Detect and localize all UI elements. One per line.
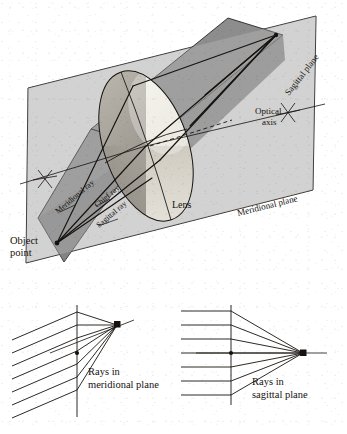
meridional-panel-rays	[12, 312, 117, 418]
optical-axis-label-line1: Optical	[255, 106, 282, 116]
meridional-panel-focus-marker	[114, 321, 121, 328]
sagittal-panel-label-line1: Rays in	[252, 376, 285, 387]
sagittal-panel-rays	[181, 311, 303, 395]
meridional-panel-label-line2: meridional plane	[88, 379, 159, 390]
object-point-marker	[55, 241, 60, 246]
meridional-panel: Rays in meridional plane	[12, 305, 159, 418]
object-point-label-line2: point	[10, 247, 32, 258]
optics-figure: Object point Meridional ray Chief ray Sa…	[0, 0, 347, 434]
image-point-marker	[274, 33, 278, 37]
optical-axis-label-line2: axis	[262, 117, 277, 127]
main-3d-diagram: Object point Meridional ray Chief ray Sa…	[10, 16, 325, 263]
meridional-panel-label-line1: Rays in	[88, 366, 121, 377]
object-point-label-line1: Object	[10, 235, 38, 246]
sagittal-panel-focus-marker	[300, 350, 307, 357]
lens-label: Lens	[172, 199, 192, 210]
sagittal-panel-label-line2: sagittal plane	[252, 389, 308, 400]
sagittal-panel: Rays in sagittal plane	[181, 305, 327, 405]
meridional-panel-axis-point	[75, 351, 79, 355]
sagittal-panel-axis-point	[229, 351, 233, 355]
